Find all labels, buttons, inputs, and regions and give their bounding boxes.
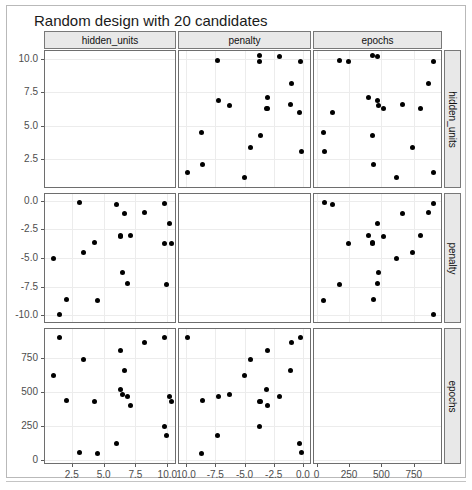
data-point <box>169 241 174 246</box>
data-point <box>431 59 436 64</box>
data-point <box>277 394 282 399</box>
data-point <box>289 81 294 86</box>
y-axis-tick-label: 5.0 <box>8 120 38 131</box>
gridline-vertical <box>303 51 304 187</box>
panel-penalty-vs-epochs <box>178 328 311 464</box>
y-axis-tick <box>41 159 44 160</box>
data-point <box>77 200 82 205</box>
data-point <box>128 233 133 238</box>
gridline-vertical <box>381 51 382 187</box>
x-axis-tick <box>215 464 216 467</box>
y-axis-tick <box>41 426 44 427</box>
data-point <box>185 170 190 175</box>
data-point <box>199 130 204 135</box>
x-axis-tick-label: 500 <box>365 469 397 480</box>
data-point <box>118 234 123 239</box>
gridline-horizontal <box>314 460 441 461</box>
x-axis-tick <box>245 464 246 467</box>
data-point <box>248 145 253 150</box>
data-point <box>125 281 130 286</box>
x-axis-tick <box>72 464 73 467</box>
gridline-horizontal <box>179 59 310 60</box>
y-axis-tick-label: 0 <box>8 454 38 465</box>
gridline-horizontal <box>179 126 310 127</box>
data-point <box>400 211 405 216</box>
gridline-horizontal <box>179 460 310 461</box>
strip-right-hidden-units: hidden_units <box>444 50 461 188</box>
x-axis-tick <box>381 464 382 467</box>
y-axis-tick-label: 250 <box>8 420 38 431</box>
data-point <box>169 399 174 404</box>
data-point <box>114 441 119 446</box>
data-point <box>64 297 69 302</box>
data-point <box>81 250 86 255</box>
data-point <box>371 162 376 167</box>
data-point <box>215 58 220 63</box>
x-axis-tick <box>274 464 275 467</box>
data-point <box>227 392 232 397</box>
data-point <box>92 399 97 404</box>
gridline-horizontal <box>314 92 441 93</box>
data-point <box>322 149 327 154</box>
x-axis-tick <box>167 464 168 467</box>
data-point <box>289 340 294 345</box>
x-axis-tick-label: 7.5 <box>119 469 151 480</box>
y-axis-tick <box>41 358 44 359</box>
data-point <box>164 433 169 438</box>
data-point <box>431 170 436 175</box>
data-point <box>431 201 436 206</box>
data-point <box>57 312 62 317</box>
y-axis-tick <box>41 287 44 288</box>
data-point <box>375 98 380 103</box>
data-point <box>51 373 56 378</box>
data-point <box>375 54 380 59</box>
data-point <box>215 433 220 438</box>
strip-top-label: penalty <box>228 35 260 46</box>
y-axis-tick-label: -10.0 <box>8 309 38 320</box>
strip-right-label: hidden_units <box>447 91 458 148</box>
data-point <box>167 221 172 226</box>
data-point <box>81 357 86 362</box>
gridline-horizontal <box>45 392 175 393</box>
data-point <box>167 394 172 399</box>
gridline-horizontal <box>314 358 441 359</box>
data-point <box>299 149 304 154</box>
data-point <box>431 312 436 317</box>
panel-epochs-vs-hidden_units <box>313 50 442 188</box>
data-point <box>337 58 342 63</box>
data-point <box>128 403 133 408</box>
gridline-horizontal <box>179 287 310 288</box>
y-axis-tick <box>41 315 44 316</box>
gridline-vertical <box>245 329 246 463</box>
data-point <box>330 110 335 115</box>
data-point <box>346 241 351 246</box>
data-point <box>400 102 405 107</box>
gridline-vertical <box>317 51 318 187</box>
data-point <box>265 348 270 353</box>
strip-top-label: hidden_units <box>82 35 139 46</box>
data-point <box>242 175 247 180</box>
gridline-horizontal <box>45 258 175 259</box>
data-point <box>142 210 147 215</box>
gridline-horizontal <box>45 159 175 160</box>
data-point <box>216 394 221 399</box>
data-point <box>297 110 302 115</box>
data-point <box>242 373 247 378</box>
data-point <box>370 133 375 138</box>
data-point <box>265 95 270 100</box>
data-point <box>375 221 380 226</box>
data-point <box>92 240 97 245</box>
data-point <box>248 357 253 362</box>
data-point <box>77 450 82 455</box>
gridline-vertical <box>186 329 187 463</box>
data-point <box>321 130 326 135</box>
x-axis-tick-label: -7.5 <box>199 469 231 480</box>
data-point <box>370 241 375 246</box>
gridline-horizontal <box>45 315 175 316</box>
gridline-vertical <box>135 329 136 463</box>
gridline-vertical <box>414 51 415 187</box>
y-axis-tick <box>41 392 44 393</box>
x-axis-tick-label: -2.5 <box>258 469 290 480</box>
data-point <box>265 403 270 408</box>
data-point <box>200 162 205 167</box>
